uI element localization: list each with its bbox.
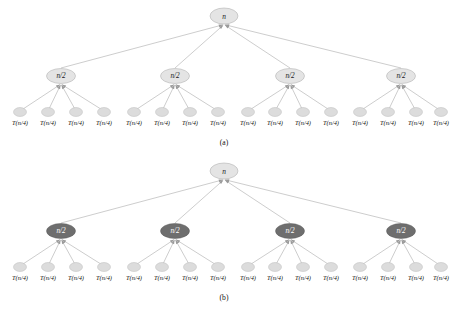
edge-line (388, 240, 401, 266)
internal-node-label: n/2 (396, 227, 406, 235)
leaf-node-label: T(n/4) (433, 274, 449, 282)
tree-edge (290, 240, 303, 266)
leaf-node-label: T(n/4) (352, 119, 368, 127)
tree-edge (401, 240, 416, 266)
edge-line (162, 240, 175, 266)
tree-edge (248, 240, 289, 266)
leaf-node (14, 108, 27, 117)
tree-edge (62, 85, 104, 111)
leaf-node (70, 108, 83, 117)
tree-edge (61, 179, 223, 223)
leaf-node (212, 263, 225, 272)
leaf-node-label: T(n/4) (12, 119, 28, 127)
leaf-node-label: T(n/4) (295, 274, 311, 282)
edge-line (290, 85, 303, 111)
edge-line (175, 25, 223, 68)
edge-line (248, 240, 289, 266)
leaf-node-label: T(n/4) (96, 274, 112, 282)
tree-edge (388, 85, 401, 111)
edge-line (61, 25, 223, 68)
tree-edge (162, 85, 175, 111)
leaf-node-label: T(n/4) (154, 119, 170, 127)
edge-line (402, 85, 441, 111)
root-node-label: n (222, 167, 226, 176)
leaf-node (242, 263, 255, 272)
tree-diagram-a: T(n/4)T(n/4)T(n/4)T(n/4)T(n/4)T(n/4)T(n/… (0, 0, 453, 155)
leaf-node-label: T(n/4) (240, 274, 256, 282)
leaf-node-label: T(n/4) (408, 119, 424, 127)
leaf-node (128, 263, 141, 272)
leaf-node (98, 108, 111, 117)
leaf-node-label: T(n/4) (40, 274, 56, 282)
tree-edge (175, 180, 223, 223)
leaf-node (184, 263, 197, 272)
leaf-node (42, 263, 55, 272)
tree-edge (401, 85, 416, 111)
leaf-node (14, 263, 27, 272)
tree-edge (225, 179, 401, 223)
leaf-node (297, 108, 310, 117)
tree-edge (225, 180, 290, 223)
leaf-node (212, 108, 225, 117)
recursion-tree-figure-a: T(n/4)T(n/4)T(n/4)T(n/4)T(n/4)T(n/4)T(n/… (0, 0, 453, 155)
internal-node-label: n/2 (396, 72, 406, 80)
leaf-node (42, 108, 55, 117)
leaf-node (354, 108, 367, 117)
leaf-node (156, 263, 169, 272)
tree-edge (402, 240, 441, 266)
leaf-node (410, 263, 423, 272)
leaf-node-label: T(n/4) (408, 274, 424, 282)
internal-node-label: n/2 (285, 72, 295, 80)
leaf-node-label: T(n/4) (267, 119, 283, 127)
leaf-node (269, 263, 282, 272)
leaf-node-label: T(n/4) (154, 274, 170, 282)
leaf-node-label: T(n/4) (210, 274, 226, 282)
leaf-node-label: T(n/4) (323, 119, 339, 127)
leaf-node (325, 263, 338, 272)
tree-edge (290, 85, 303, 111)
figure-caption: (b) (220, 293, 229, 302)
edge-line (162, 85, 175, 111)
tree-diagram-b: T(n/4)T(n/4)T(n/4)T(n/4)T(n/4)T(n/4)T(n/… (0, 155, 453, 310)
leaf-node-label: T(n/4) (240, 119, 256, 127)
tree-edge (402, 85, 441, 111)
edge-line (175, 180, 223, 223)
leaf-node-label: T(n/4) (295, 119, 311, 127)
leaf-node (242, 108, 255, 117)
leaf-node (156, 108, 169, 117)
leaf-node (382, 108, 395, 117)
tree-edge (225, 24, 401, 68)
edge-line (176, 240, 218, 266)
leaf-node-label: T(n/4) (380, 119, 396, 127)
leaf-node-label: T(n/4) (267, 274, 283, 282)
leaf-node (435, 108, 448, 117)
leaf-node (382, 263, 395, 272)
leaf-node (184, 108, 197, 117)
tree-edge (248, 85, 289, 111)
internal-node-label: n/2 (56, 227, 66, 235)
leaf-node-label: T(n/4) (210, 119, 226, 127)
edge-line (225, 180, 401, 223)
edge-line (48, 240, 61, 266)
edge-line (225, 180, 290, 223)
edge-line (48, 85, 61, 111)
leaf-node (325, 108, 338, 117)
root-node-label: n (222, 12, 226, 21)
edge-line (290, 240, 303, 266)
edge-line (225, 25, 401, 68)
edge-line (62, 85, 104, 111)
leaf-node (98, 263, 111, 272)
tree-edge (162, 240, 175, 266)
internal-node-label: n/2 (170, 72, 180, 80)
edge-line (61, 180, 223, 223)
internal-node-label: n/2 (285, 227, 295, 235)
leaf-node-label: T(n/4) (68, 274, 84, 282)
edge-line (176, 85, 218, 111)
leaf-node-label: T(n/4) (380, 274, 396, 282)
leaf-node-label: T(n/4) (126, 119, 142, 127)
tree-edge (225, 25, 290, 68)
edge-line (401, 240, 416, 266)
tree-edge (176, 240, 218, 266)
leaf-node (128, 108, 141, 117)
figure-caption: (a) (220, 138, 229, 147)
